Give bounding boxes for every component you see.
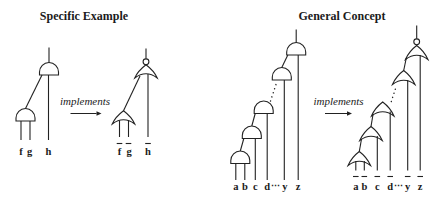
specific-and-circuit: f g h [16, 48, 59, 158]
and-gate [254, 101, 273, 114]
input-label-g: g [126, 146, 132, 157]
input-label-c: c [375, 181, 380, 192]
panel-title: Specific Example [40, 9, 129, 23]
gate-link-wire [282, 55, 288, 68]
implements-label: implements [60, 95, 110, 107]
input-label-a: a [353, 181, 359, 192]
or-gate [392, 71, 415, 85]
implements-annotation: implements [60, 95, 110, 116]
general-concept-panel: General Concept a b c d ⋯ y z [231, 9, 428, 192]
input-label-h: h [46, 146, 52, 157]
panel-title: General Concept [299, 9, 386, 23]
general-and-circuit: a b c d ⋯ y z [231, 30, 306, 193]
arrowhead-icon [97, 111, 102, 115]
continuation-dots [391, 86, 396, 102]
input-label-y: y [405, 181, 411, 192]
or-gate [360, 127, 383, 141]
and-gate [231, 151, 250, 164]
input-label-a: a [233, 181, 239, 192]
general-nor-circuit: a b c d ⋯ y z [348, 26, 428, 193]
arrowhead-icon [347, 111, 352, 115]
or-gate [348, 152, 371, 166]
input-label-f: f [19, 146, 23, 157]
ellipsis-label: ⋯ [394, 181, 403, 191]
continuation-dots [271, 84, 277, 102]
input-label-h: h [145, 146, 151, 157]
input-label-d: d [387, 181, 393, 192]
and-gate [287, 43, 306, 55]
implements-label: implements [313, 95, 363, 107]
input-label-b: b [242, 181, 248, 192]
or-gate [135, 65, 158, 78]
input-label-f: f [118, 146, 122, 157]
logic-gate-figure: Specific Example f g h implements [0, 0, 444, 205]
ellipsis-label: ⋯ [271, 181, 280, 191]
specific-example-panel: Specific Example f g h implements [16, 9, 157, 157]
input-label-y: y [282, 181, 288, 192]
input-label-b: b [361, 181, 367, 192]
or-gate [405, 46, 428, 60]
input-label-z: z [418, 181, 423, 192]
and-gate [16, 109, 35, 122]
specific-nor-circuit: f g h [112, 49, 157, 158]
gate-link-wire [252, 114, 255, 127]
and-gate [242, 126, 261, 138]
input-label-g: g [27, 146, 33, 157]
and-gate [40, 63, 59, 76]
diagram-canvas: Specific Example f g h implements [0, 0, 444, 205]
gate-link-wire [240, 139, 244, 152]
implements-annotation: implements [313, 95, 363, 116]
gate-link-wire [124, 76, 141, 111]
inverter-bubble [414, 39, 420, 45]
or-gate [112, 111, 135, 124]
gate-link-wire [26, 75, 43, 109]
input-label-z: z [296, 181, 301, 192]
and-gate [272, 68, 291, 81]
input-label-c: c [253, 181, 258, 192]
input-label-d: d [264, 181, 270, 192]
inverter-bubble [143, 59, 149, 65]
